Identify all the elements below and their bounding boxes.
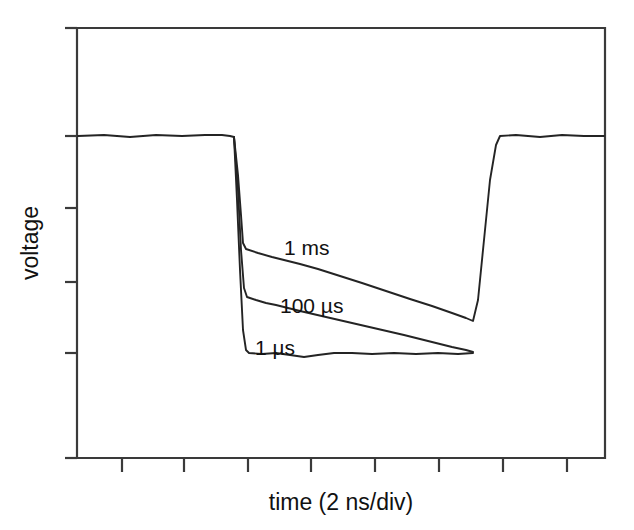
data-traces	[78, 135, 604, 357]
curve-annotations: 1 ms 100 µs 1 µs	[255, 236, 343, 359]
x-axis-title: time (2 ns/div)	[269, 489, 413, 515]
trace-100-us	[234, 137, 473, 352]
curve-label-1-ms: 1 ms	[284, 236, 330, 259]
axis-frame-path	[77, 28, 605, 458]
voltage-vs-time-plot: 1 ms 100 µs 1 µs time (2 ns/div) voltage	[0, 0, 634, 530]
x-axis-ticks	[122, 458, 567, 472]
plot-frame	[77, 28, 605, 458]
y-axis-title: voltage	[17, 206, 43, 280]
y-axis-ticks	[65, 28, 77, 458]
figure-canvas: 1 ms 100 µs 1 µs time (2 ns/div) voltage	[0, 0, 634, 530]
curve-label-1-us: 1 µs	[255, 336, 295, 359]
curve-label-100-us: 100 µs	[280, 294, 343, 317]
